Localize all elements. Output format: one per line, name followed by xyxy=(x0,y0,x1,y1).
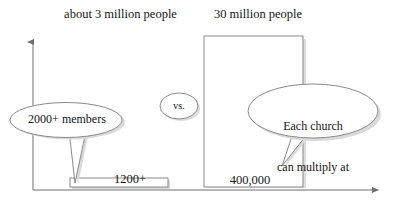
header-label-left: about 3 million people xyxy=(38,7,203,21)
versus-label: vs. xyxy=(157,100,201,112)
header-label-right: 30 million people xyxy=(196,7,320,21)
diagram-canvas: about 3 million people 30 million people… xyxy=(0,0,394,203)
callout-left-label: 2000+ members xyxy=(14,113,120,127)
bar-left-caption: 1200+ megachurches xyxy=(78,143,182,203)
bar-right-caption-line-1: 400,000 xyxy=(196,173,304,187)
callout-right-line-1: Each church xyxy=(252,120,374,134)
bar-left-caption-line-1: 1200+ xyxy=(78,172,182,186)
bar-right-caption: 400,000 local churches xyxy=(196,144,304,203)
